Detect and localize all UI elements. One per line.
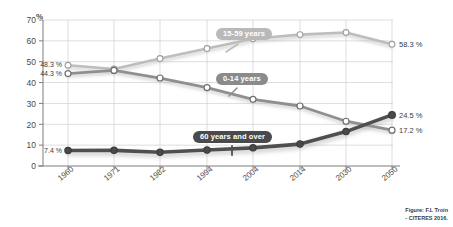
y-axis-ticks	[39, 20, 43, 166]
y-tick-70: 70	[16, 15, 36, 25]
y-tick-60: 60	[16, 36, 36, 46]
callout-pill-15-59-years: 15-59 years	[216, 28, 272, 40]
plot-background	[43, 20, 393, 166]
callout-pill-60-years-and-over: 60 years and over	[193, 131, 272, 143]
y-tick-30: 30	[16, 99, 36, 109]
credit-line-1: Figure: F.L Troin	[405, 206, 448, 214]
start-label-0-14: 44.3 %	[20, 70, 62, 77]
y-axis-unit-label: %	[36, 12, 43, 21]
y-tick-40: 40	[16, 78, 36, 88]
end-label-0-14: 17.2 %	[399, 126, 422, 135]
end-label-60-plus: 24.5 %	[399, 111, 422, 120]
end-label-15-59: 58.3 %	[399, 40, 422, 49]
credit-line-2: - CITERES 2016.	[405, 214, 448, 222]
callout-pill-0-14-years: 0-14 years	[216, 73, 268, 85]
start-label-60-plus: 7.4 %	[20, 147, 62, 154]
y-tick-20: 20	[16, 120, 36, 130]
figure-credit: Figure: F.L Troin - CITERES 2016.	[405, 206, 448, 223]
y-tick-0: 0	[16, 161, 36, 171]
start-label-15-59: 48.3 %	[20, 61, 62, 68]
chart-container: % 70 60 50 40 30 20 10 0 1960 1971 1982 …	[0, 0, 453, 227]
